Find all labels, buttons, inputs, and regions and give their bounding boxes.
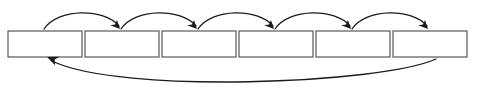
forward-arrow-4-5 [275, 13, 354, 32]
forward-arrow-1-2 [44, 13, 123, 32]
box-5-shape[interactable] [316, 31, 390, 57]
arrow-5-6-curve [352, 13, 427, 29]
process-box-4[interactable] [239, 31, 313, 57]
forward-arrows-group [44, 13, 431, 32]
process-box-1[interactable] [8, 31, 82, 57]
diagram-canvas [0, 0, 480, 106]
forward-arrow-5-6 [352, 13, 431, 32]
arrow-1-2-curve [44, 13, 119, 29]
box-4-shape[interactable] [239, 31, 313, 57]
process-box-2[interactable] [85, 31, 159, 57]
forward-arrow-2-3 [121, 13, 200, 32]
process-box-3[interactable] [162, 31, 236, 57]
process-box-6[interactable] [393, 31, 467, 57]
forward-arrow-3-4 [198, 13, 277, 32]
process-flow-diagram [0, 0, 480, 106]
box-2-shape[interactable] [85, 31, 159, 57]
box-1-shape[interactable] [8, 31, 82, 57]
arrow-4-5-curve [275, 13, 350, 29]
arrow-2-3-curve [121, 13, 196, 29]
process-boxes-group [8, 31, 467, 57]
arrow-3-4-curve [198, 13, 273, 29]
feedback-arrow-curve [52, 59, 436, 82]
box-6-shape[interactable] [393, 31, 467, 57]
process-box-5[interactable] [316, 31, 390, 57]
box-3-shape[interactable] [162, 31, 236, 57]
